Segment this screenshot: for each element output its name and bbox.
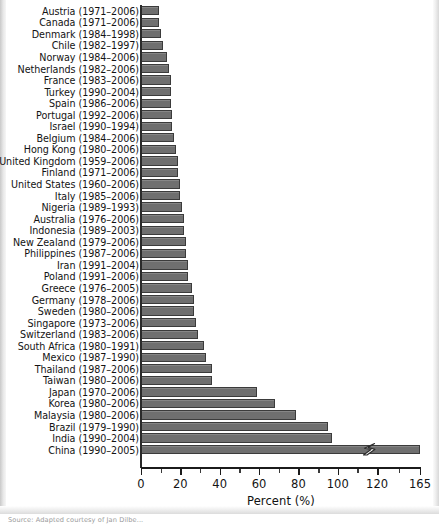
bar (141, 399, 275, 408)
x-axis-line (141, 467, 421, 469)
bar-row: Singapore (1973–2006) (0, 317, 439, 329)
bar (141, 306, 194, 315)
bar-row: France (1983–2006) (0, 74, 439, 86)
bar-row: Thailand (1987–2006) (0, 363, 439, 375)
bar (141, 387, 257, 396)
bar (141, 318, 196, 327)
bar-row: New Zealand (1979–2006) (0, 236, 439, 248)
bar-category-label: Portugal (1992–2006) (36, 109, 139, 120)
bar (141, 156, 178, 165)
bar-category-label: China (1990–2005) (48, 444, 139, 455)
bar-row: Italy (1985–2006) (0, 190, 439, 202)
bar-category-label: Italy (1985–2006) (55, 190, 139, 201)
x-axis-tick (298, 469, 299, 475)
bar-category-label: Denmark (1984–1998) (32, 28, 139, 39)
x-axis-tick (220, 469, 221, 475)
bar-row: Iran (1991–2004) (0, 259, 439, 271)
bar-row: Canada (1971–2006) (0, 17, 439, 29)
bar (141, 6, 159, 15)
bar (141, 260, 188, 269)
x-axis-tick-label: 165 (409, 477, 431, 491)
bar-row: Austria (1971–2006) (0, 5, 439, 17)
bar (141, 75, 171, 84)
bar-row: Philippines (1987–2006) (0, 248, 439, 260)
bar (141, 341, 204, 350)
bar-row: China (1990–2005) (0, 444, 439, 456)
bar-row: South Africa (1980–1991) (0, 340, 439, 352)
bar-category-label: Spain (1986–2006) (49, 98, 139, 109)
bar-category-label: Hong Kong (1980–2006) (24, 144, 139, 155)
bar-category-label: United States (1960–2006) (11, 179, 139, 190)
bar-row: Sweden (1980–2006) (0, 305, 439, 317)
x-axis-tick (377, 469, 378, 475)
x-axis-tick-label: 0 (137, 477, 144, 491)
bar-category-label: Thailand (1987–2006) (35, 363, 139, 374)
bar-category-label: Singapore (1973–2006) (27, 317, 139, 328)
x-axis-minor-tick (399, 469, 400, 473)
bar-row: Brazil (1979–1990) (0, 421, 439, 433)
x-axis-tick-label: 60 (252, 477, 267, 491)
figure-panel: Austria (1971–2006)Canada (1971–2006)Den… (0, 0, 439, 527)
x-axis-tick (141, 469, 142, 475)
bar-category-label: Norway (1984–2006) (39, 51, 139, 62)
bar-row: Korea (1980–2006) (0, 398, 439, 410)
bar (141, 249, 186, 258)
figure-source-caption: Source: Adapted courtesy of Jan Dilbe... (8, 516, 428, 524)
bar (141, 226, 184, 235)
bar (141, 330, 198, 339)
bar (141, 445, 420, 454)
bar-row: United States (1960–2006) (0, 178, 439, 190)
bar-row: Finland (1971–2006) (0, 167, 439, 179)
bar-category-label: Brazil (1979–1990) (49, 421, 139, 432)
x-axis-minor-tick (239, 469, 240, 473)
bar (141, 295, 194, 304)
bar-row: Spain (1986–2006) (0, 97, 439, 109)
x-axis-minor-tick (161, 469, 162, 473)
bar-row: Australia (1976–2006) (0, 213, 439, 225)
bar (141, 87, 171, 96)
x-axis-tick-label: 100 (327, 477, 349, 491)
x-axis-minor-tick (318, 469, 319, 473)
bar-category-label: Netherlands (1982–2006) (18, 63, 140, 74)
bar (141, 18, 159, 27)
bar-row: Japan (1970–2006) (0, 386, 439, 398)
x-axis-tick-label: 120 (366, 477, 388, 491)
bar-row: Poland (1991–2006) (0, 271, 439, 283)
bar-category-label: Belgium (1984–2006) (36, 132, 139, 143)
bar (141, 99, 171, 108)
bar-category-label: Greece (1976–2005) (42, 282, 139, 293)
bar-category-label: Mexico (1987–1990) (42, 352, 139, 363)
bar-row: Netherlands (1982–2006) (0, 63, 439, 75)
bar-category-label: Finland (1971–2006) (42, 167, 140, 178)
bar-row: Malaysia (1980–2006) (0, 409, 439, 421)
bar-category-label: France (1983–2006) (44, 75, 139, 86)
x-axis-title: Percent (%) (141, 494, 421, 508)
bar-row: Belgium (1984–2006) (0, 132, 439, 144)
bar (141, 52, 167, 61)
bar (141, 214, 184, 223)
bar-category-label: New Zealand (1979–2006) (13, 236, 139, 247)
bar (141, 64, 169, 73)
bar (141, 237, 186, 246)
bar-row: Mexico (1987–1990) (0, 352, 439, 364)
bar (141, 110, 172, 119)
bar-category-label: Canada (1971–2006) (39, 17, 139, 28)
bar-row: Greece (1976–2005) (0, 282, 439, 294)
bar-row: Norway (1984–2006) (0, 51, 439, 63)
bar (141, 29, 161, 38)
bar (141, 41, 163, 50)
bar (141, 202, 182, 211)
bar-category-label: Taiwan (1980–2006) (43, 375, 139, 386)
bar-row: Chile (1982–1997) (0, 40, 439, 52)
bar-category-label: Israel (1990–1994) (50, 121, 139, 132)
bar (141, 191, 180, 200)
bar-row: Taiwan (1980–2006) (0, 375, 439, 387)
x-axis-tick (259, 469, 260, 475)
bar-row: Portugal (1992–2006) (0, 109, 439, 121)
bar-row: India (1990–2004) (0, 432, 439, 444)
bar-category-label: Germany (1978–2006) (32, 294, 139, 305)
x-axis-minor-tick (200, 469, 201, 473)
x-axis-tick-label: 20 (173, 477, 188, 491)
bar-row: Nigeria (1989–1993) (0, 201, 439, 213)
x-axis-tick (180, 469, 181, 475)
